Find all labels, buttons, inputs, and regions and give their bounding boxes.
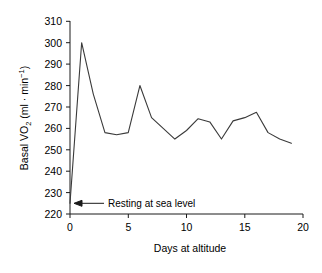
annotation-resting-at-sea-level: Resting at sea level	[74, 198, 195, 209]
x-tick-label: 10	[181, 221, 193, 233]
x-tick-marks	[70, 214, 303, 218]
y-tick-label: 300	[44, 37, 62, 49]
y-axis-title: Basal VO2 (ml · min−1)	[17, 66, 33, 170]
y-axis-title-superscript: −1	[17, 69, 26, 78]
axes	[70, 21, 303, 214]
x-tick-label: 20	[297, 221, 309, 233]
x-tick-label: 0	[67, 221, 73, 233]
y-tick-labels: 310 300 290 280 270 260 250 240 230 220	[44, 15, 62, 220]
svg-text:Basal VO2 (ml · min−1): Basal VO2 (ml · min−1)	[17, 66, 33, 170]
basal-vo2-line-chart: 310 300 290 280 270 260 250 240 230 220 …	[0, 0, 322, 273]
x-tick-label: 5	[125, 221, 131, 233]
y-axis-title-units-close: )	[18, 66, 30, 70]
y-tick-label: 270	[44, 101, 62, 113]
annotation-arrow-head	[74, 200, 82, 206]
annotation-label: Resting at sea level	[108, 198, 195, 209]
x-tick-labels: 0 5 10 15 20	[67, 221, 309, 233]
y-tick-label: 240	[44, 165, 62, 177]
x-axis-title: Days at altitude	[154, 242, 227, 254]
y-tick-label: 310	[44, 15, 62, 27]
y-tick-label: 230	[44, 187, 62, 199]
y-tick-label: 280	[44, 80, 62, 92]
y-tick-label: 220	[44, 208, 62, 220]
y-tick-marks	[66, 21, 70, 214]
data-line-basal-vo2	[70, 43, 291, 204]
y-tick-label: 260	[44, 122, 62, 134]
y-axis-title-prefix: Basal VO	[18, 126, 30, 170]
y-tick-label: 250	[44, 144, 62, 156]
y-tick-label: 290	[44, 58, 62, 70]
y-axis-title-units-open: (ml · min	[18, 78, 30, 122]
chart-figure: 310 300 290 280 270 260 250 240 230 220 …	[0, 0, 322, 273]
x-tick-label: 15	[239, 221, 251, 233]
